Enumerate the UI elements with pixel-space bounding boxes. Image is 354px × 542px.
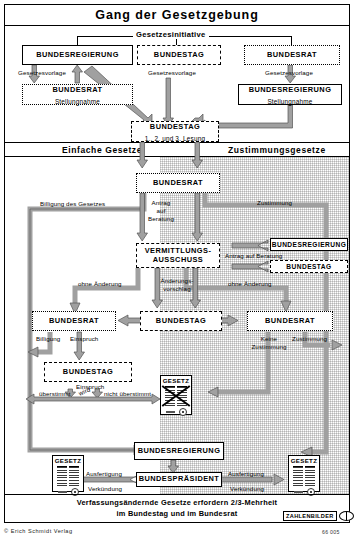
- logo-mark-icon: [339, 511, 354, 521]
- box-label-line2: AUSSCHUSS: [153, 256, 203, 265]
- footer-line-2: im Bundestag und im Bundesrat: [117, 509, 238, 520]
- label-ohne-aenderung-right: ohne Änderung: [228, 281, 272, 288]
- label-ausfertigung-left: Ausfertigung: [86, 471, 122, 478]
- box-bundesrat-right[interactable]: BUNDESRAT: [247, 311, 333, 331]
- label-einspruch: Einspruch: [70, 336, 98, 343]
- document-columns: [293, 466, 315, 486]
- box-sublabel: 1., 2. und 3. Lesung: [145, 135, 206, 142]
- box-label: BUNDESTAG: [63, 368, 113, 377]
- box-label: BUNDESRAT: [49, 317, 99, 326]
- box-label: BUNDESRAT: [267, 51, 317, 60]
- label-keine-zustimmung-1: Keine: [250, 336, 288, 343]
- box-bundestag-einspruch[interactable]: BUNDESTAG: [44, 362, 132, 382]
- box-bundesrat-initiative[interactable]: BUNDESRAT: [244, 45, 340, 65]
- document-gesetz-right: GESETZ: [288, 455, 320, 492]
- label-antrag-auf-beratung-right: Antrag auf Beratung: [225, 253, 282, 260]
- signature-mark: [58, 491, 67, 493]
- label-nicht-ueberstimmt: nicht überstimmt: [104, 391, 151, 398]
- reference-number: 66 005: [322, 529, 340, 535]
- box-bundestag-mid[interactable]: BUNDESTAG: [140, 311, 222, 331]
- box-bundestag-lesung[interactable]: BUNDESTAG 1., 2. und 3. Lesung: [131, 121, 219, 142]
- box-label: BUNDESTAG: [156, 317, 206, 326]
- band-divider-top: [5, 142, 349, 143]
- document-footer: [166, 408, 187, 416]
- label-ohne-aenderung-left: ohne Änderung: [78, 281, 122, 288]
- label-aenderungsvorschlag-1: Änderungs-: [160, 278, 194, 285]
- box-bundesregierung-stellungnahme[interactable]: BUNDESREGIERUNG Stellungnahme: [238, 84, 342, 105]
- box-label: BUNDESTAG: [286, 263, 331, 271]
- label-ueberstimmt: überstimmt: [39, 391, 71, 398]
- document-title: GESETZ: [291, 457, 318, 464]
- page-title-text: Gang der Gesetzgebung: [95, 8, 258, 22]
- label-keine-zustimmung-2: Zustimmung: [245, 344, 293, 351]
- box-label: BUNDESPRÄSIDENT: [139, 475, 220, 484]
- box-bundesrat-main[interactable]: BUNDESRAT: [136, 173, 220, 193]
- label-antrag-2: auf: [148, 208, 174, 215]
- label-billigung: Billigung: [36, 336, 60, 343]
- box-bundesrat-stellungnahme[interactable]: BUNDESRAT Stellungnahme: [22, 84, 133, 105]
- label-aenderungsvorschlag-2: vorschlag: [160, 286, 194, 293]
- signature-mark: [294, 491, 303, 493]
- label-ausfertigung-right: Ausfertigung: [228, 471, 264, 478]
- document-column: [69, 466, 79, 486]
- box-bundesregierung-initiative[interactable]: BUNDESREGIERUNG: [22, 45, 133, 65]
- logo-label: ZAHLENBILDER: [283, 511, 337, 521]
- label-gesetzesvorlage-right: Gesetzesvorlage: [265, 70, 313, 77]
- box-label: BUNDESREGIERUNG: [36, 51, 119, 60]
- page-title: Gang der Gesetzgebung: [5, 5, 349, 26]
- label-zustimmung-top: Zustimmung: [257, 200, 292, 207]
- box-bundespraesident[interactable]: BUNDESPRÄSIDENT: [136, 472, 222, 487]
- footer-line-1: Verfassungsändernde Gesetze erfordern 2/…: [77, 498, 278, 509]
- signature-mark: [166, 411, 175, 413]
- band-label-zustimmungsgesetze: Zustimmungsgesetze: [228, 145, 326, 155]
- band-label-einfache-gesetze: Einfache Gesetze: [62, 145, 142, 155]
- document-column: [57, 466, 67, 486]
- box-sublabel: Stellungnahme: [267, 98, 312, 105]
- box-bundesregierung-bottom[interactable]: BUNDESREGIERUNG: [134, 442, 224, 460]
- seal-icon: [179, 408, 187, 416]
- box-label: BUNDESREGIERUNG: [138, 447, 221, 456]
- publisher-logo: ZAHLENBILDER: [283, 511, 354, 521]
- label-antrag-3: Beratung: [143, 216, 179, 223]
- box-label: BUNDESTAG: [154, 51, 204, 60]
- copyright-text: © Erich Schmidt Verlag: [4, 528, 73, 534]
- label-antrag-1: Antrag: [148, 200, 174, 207]
- document-columns: [57, 466, 79, 486]
- label-verkuendung-right: Verkündung: [230, 486, 264, 493]
- label-gesetzesvorlage-left: Gesetzesvorlage: [18, 70, 66, 77]
- box-label: BUNDESRAT: [153, 179, 203, 188]
- box-label: BUNDESTAG: [150, 123, 200, 132]
- box-sublabel: Stellungnahme: [55, 98, 100, 105]
- label-verkuendung-left: Verkündung: [88, 486, 122, 493]
- box-label: BUNDESREGIERUNG: [272, 241, 347, 249]
- document-title: GESETZ: [163, 377, 190, 384]
- box-label: BUNDESRAT: [265, 317, 315, 326]
- initiative-label: Gesetzesinitiative: [133, 31, 209, 39]
- document-column: [305, 466, 315, 486]
- box-label: BUNDESREGIERUNG: [249, 86, 332, 95]
- box-bundestag-initiative[interactable]: BUNDESTAG: [137, 45, 221, 65]
- document-column: [293, 466, 303, 486]
- box-bundesrat-left[interactable]: BUNDESRAT: [32, 311, 116, 331]
- box-bundesregierung-antrag[interactable]: BUNDESREGIERUNG: [270, 238, 348, 251]
- label-zustimmung-bottom: Zustimmung: [292, 336, 327, 343]
- document-gesetz-rejected: GESETZ: [160, 375, 192, 415]
- box-vermittlungsausschuss[interactable]: VERMITTLUNGS- AUSSCHUSS: [136, 243, 220, 268]
- label-gesetzesvorlage-mid: Gesetzesvorlage: [148, 70, 196, 77]
- box-label: BUNDESRAT: [53, 86, 103, 95]
- box-bundestag-antrag[interactable]: BUNDESTAG: [270, 260, 348, 273]
- document-title: GESETZ: [55, 457, 82, 464]
- band-divider-bottom: [5, 156, 349, 157]
- label-billigung-des-gesetzes: Billigung des Gesetzes: [40, 201, 105, 208]
- document-gesetz-left: GESETZ: [52, 455, 84, 492]
- diagram-page: Gang der Gesetzgebung Einfache Gesetze Z…: [0, 0, 354, 542]
